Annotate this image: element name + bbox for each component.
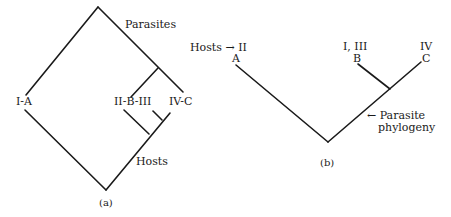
parasites-label: Parasites: [125, 19, 176, 31]
host-tree-a: [25, 110, 170, 190]
taxon-label-ii-b-iii: II-B-III: [114, 96, 151, 108]
parasite-phylogeny-label-line2: phylogeny: [378, 122, 435, 134]
tip-label-a: A: [232, 53, 240, 65]
taxon-label-iv-c: IV-C: [169, 96, 192, 108]
taxon-label-i-a: I-A: [16, 96, 32, 108]
panel-b-caption: (b): [320, 157, 334, 168]
hosts-label: Hosts: [136, 156, 168, 168]
panel-a-caption: (a): [99, 197, 113, 208]
tip-label-b: B: [353, 53, 361, 65]
tip-label-c: C: [422, 53, 430, 65]
